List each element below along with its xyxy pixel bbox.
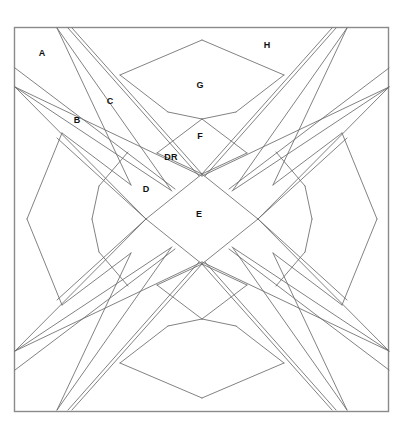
right-hex-edge-lower [342, 219, 377, 305]
pent-bottom-edge-lower-right [202, 264, 247, 285]
ray-bl-1 [57, 248, 171, 410]
pent-f-edge-lower-right [202, 153, 247, 174]
ray-rt-1 [229, 68, 389, 189]
left-hex-edge-upper [27, 133, 62, 219]
diamond-e-edge-ll [146, 219, 202, 264]
region-label-f: F [197, 131, 203, 141]
diagram-canvas: A B C D DR E F G H [0, 0, 405, 430]
region-label-a: A [39, 48, 46, 58]
hex-g-edge-left [120, 40, 202, 75]
region-label-e: E [196, 209, 202, 219]
hex-g-edge-right [202, 40, 284, 75]
diamond-e-edge-ur [202, 174, 258, 219]
ray-tl-2 [68, 28, 199, 176]
ray-br-2 [205, 262, 336, 410]
diag-br-out-1 [258, 138, 347, 219]
hex-bottom-edge-bottom-right [202, 319, 236, 326]
ray-rb-3 [232, 247, 389, 351]
hex-bottom-edge-lower-right [236, 326, 284, 363]
hex-g-edge-lower-left [120, 75, 168, 112]
inner-right-edge-lower [305, 219, 312, 252]
ray-br-1 [233, 248, 347, 410]
ray-lb-3 [15, 247, 172, 351]
region-label-h: H [264, 40, 271, 50]
hex-g-edge-bottom-right [202, 112, 236, 119]
geometric-diagram-svg [0, 0, 405, 430]
hex-g-edge-bottom-left [168, 112, 202, 119]
inner-right-edge-upper [305, 186, 312, 219]
ray-rt-3 [232, 87, 389, 191]
diag-tr-out-1 [258, 219, 347, 300]
pent-bottom-edge-lower-left [157, 264, 202, 285]
ray-tr-1 [233, 28, 347, 190]
hex-g-edge-lower-right [236, 75, 284, 112]
hex-bottom-edge-right [202, 363, 284, 398]
region-label-dr: DR [164, 152, 177, 162]
ray-bl-2 [68, 262, 199, 410]
ray-lb-1 [15, 249, 175, 370]
diag-bl-out-1 [57, 138, 146, 219]
ray-rt-2 [202, 87, 389, 176]
diamond-e-edge-ul [146, 174, 202, 219]
diamond-e-edge-lr [202, 219, 258, 264]
ray-rb-2 [202, 262, 389, 351]
hex-bottom-edge-bottom-left [168, 319, 202, 326]
inner-left-edge-upper [92, 186, 99, 219]
ray-lb-2 [15, 262, 202, 351]
ray-tr-2 [205, 28, 336, 176]
region-label-b: B [74, 115, 81, 125]
hex-bottom-edge-lower-left [120, 326, 168, 363]
ray-tl-1 [57, 28, 171, 190]
region-label-g: G [196, 80, 203, 90]
hex-bottom-edge-left [120, 363, 202, 398]
ray-rb-1 [229, 249, 389, 370]
region-label-c: C [107, 96, 114, 106]
left-hex-edge-lower [27, 219, 62, 305]
inner-left-edge-lower [92, 219, 99, 252]
ray-lt-1 [15, 68, 175, 189]
right-hex-edge-upper [342, 133, 377, 219]
ray-lt-3 [15, 87, 172, 191]
diag-tl-out-1 [57, 219, 146, 300]
region-label-d: D [143, 184, 150, 194]
